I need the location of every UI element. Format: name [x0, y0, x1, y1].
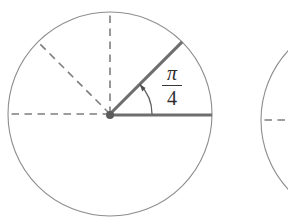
angle-label-fraction: π 4	[158, 63, 186, 108]
figure-root: π 4	[0, 0, 288, 223]
radius-135deg-dashed	[38, 42, 110, 114]
angle-label-denominator: 4	[158, 87, 186, 108]
primary-circle-group	[8, 12, 212, 216]
angle-label-numerator: π	[158, 63, 186, 84]
unit-circle-diagram	[0, 0, 288, 223]
angle-label-fraction-bar	[162, 85, 182, 86]
secondary-circle-group	[261, 18, 288, 222]
circle-center-dot	[106, 111, 114, 119]
